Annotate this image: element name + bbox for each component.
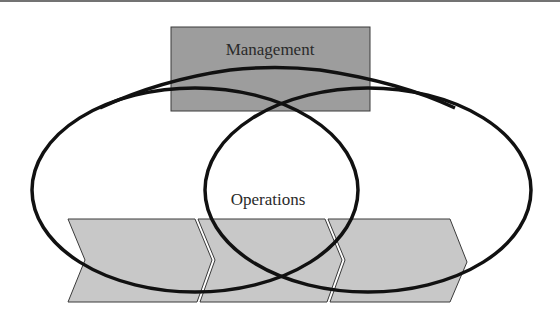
diagram-canvas: Management Operations xyxy=(0,0,560,320)
operations-label: Operations xyxy=(231,190,306,209)
management-label: Management xyxy=(226,40,315,59)
chevron-segment-1 xyxy=(68,219,212,302)
